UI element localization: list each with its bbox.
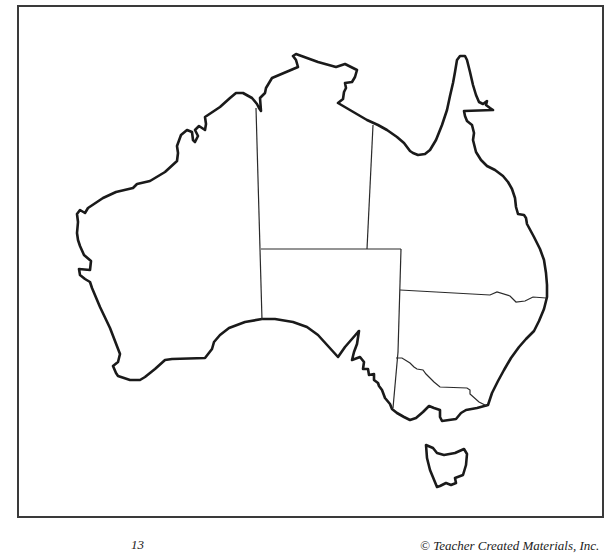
state-borders: [256, 108, 546, 408]
border-sa-vic: [393, 352, 398, 408]
tasmania-coastline: [426, 445, 467, 487]
page-number: 13: [131, 539, 144, 551]
border-nt-qld: [367, 125, 373, 249]
copyright-notice: © Teacher Created Materials, Inc.: [420, 540, 599, 552]
border-sa-east: [398, 249, 401, 352]
border-nsw-vic: [396, 358, 487, 406]
border-qld-nsw: [400, 290, 546, 302]
mainland-coastline: [77, 54, 547, 421]
border-wa-east: [256, 108, 262, 320]
